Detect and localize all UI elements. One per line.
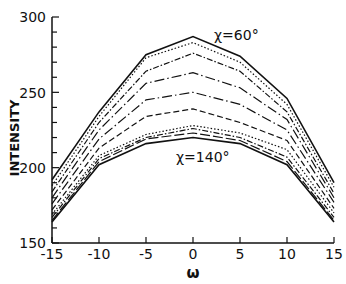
series-line-2 — [52, 43, 334, 188]
series-line-4 — [52, 73, 334, 198]
x-tick-label-15: 15 — [325, 246, 343, 262]
x-tick-label-0: 0 — [189, 246, 198, 262]
y-tick-label-300: 300 — [19, 9, 46, 25]
y-tick-label-200: 200 — [19, 160, 46, 176]
x-ticks — [52, 237, 334, 243]
x-axis-title: ω — [186, 264, 199, 282]
x-tick-label-neg15: -15 — [41, 246, 64, 262]
x-tick-label-neg10: -10 — [88, 246, 111, 262]
series-group — [52, 37, 334, 222]
annotation-chi-60: χ=60° — [214, 27, 259, 43]
annotation-chi-140: χ=140° — [176, 149, 230, 165]
x-tick-label-5: 5 — [236, 246, 245, 262]
x-tick-label-10: 10 — [278, 246, 296, 262]
y-axis-title: INTENSITY — [7, 99, 22, 176]
series-line-8 — [52, 129, 334, 218]
series-line-3 — [52, 53, 334, 193]
x-tick-label-neg5: -5 — [139, 246, 153, 262]
y-tick-label-250: 250 — [19, 85, 46, 101]
intensity-chart: 300 250 200 150 -15 -10 -5 0 5 10 15 INT… — [0, 0, 346, 284]
